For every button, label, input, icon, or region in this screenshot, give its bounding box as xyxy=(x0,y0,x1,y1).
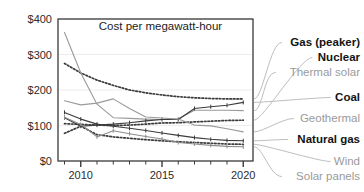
series-label-natural-gas: Natural gas xyxy=(297,133,360,145)
axis-tick-marks xyxy=(65,161,244,167)
y-tick-label: $0 xyxy=(40,155,52,167)
x-tick-label: 2015 xyxy=(150,169,174,181)
gridlines xyxy=(59,19,252,126)
cost-per-megawatt-hour-line-chart: $0$100$200$300$400 201020152020 Cost per… xyxy=(0,0,364,192)
series-line xyxy=(65,126,244,144)
y-tick-label: $400 xyxy=(28,13,52,25)
x-tick-label: 2020 xyxy=(231,169,255,181)
chart-container: $0$100$200$300$400 201020152020 Cost per… xyxy=(0,0,364,192)
series-label-thermal-solar: Thermal solar xyxy=(290,66,360,78)
series-labels: Gas (peaker)NuclearThermal solarCoalGeot… xyxy=(290,36,361,182)
series-line xyxy=(65,99,244,132)
series-label-gas-peaker: Gas (peaker) xyxy=(290,36,360,48)
y-tick-label: $100 xyxy=(28,120,52,132)
leader-line xyxy=(254,140,288,141)
leader-line xyxy=(254,43,282,99)
x-axis-tick-labels: 201020152020 xyxy=(69,169,256,181)
y-tick-label: $300 xyxy=(28,49,52,61)
data-series-layer xyxy=(65,33,244,149)
y-axis-tick-labels: $0$100$200$300$400 xyxy=(28,13,52,167)
leader-line xyxy=(254,147,282,177)
series-label-coal: Coal xyxy=(335,91,360,103)
series-label-geothermal: Geothermal xyxy=(300,112,360,124)
chart-title: Cost per megawatt-hour xyxy=(99,20,223,32)
x-tick-label: 2010 xyxy=(69,169,93,181)
leader-line xyxy=(254,98,331,103)
series-label-wind: Wind xyxy=(334,155,360,167)
series-label-nuclear: Nuclear xyxy=(318,51,361,63)
leader-line xyxy=(254,119,294,132)
y-tick-label: $200 xyxy=(28,84,52,96)
series-label-solar-panels: Solar panels xyxy=(296,170,360,182)
